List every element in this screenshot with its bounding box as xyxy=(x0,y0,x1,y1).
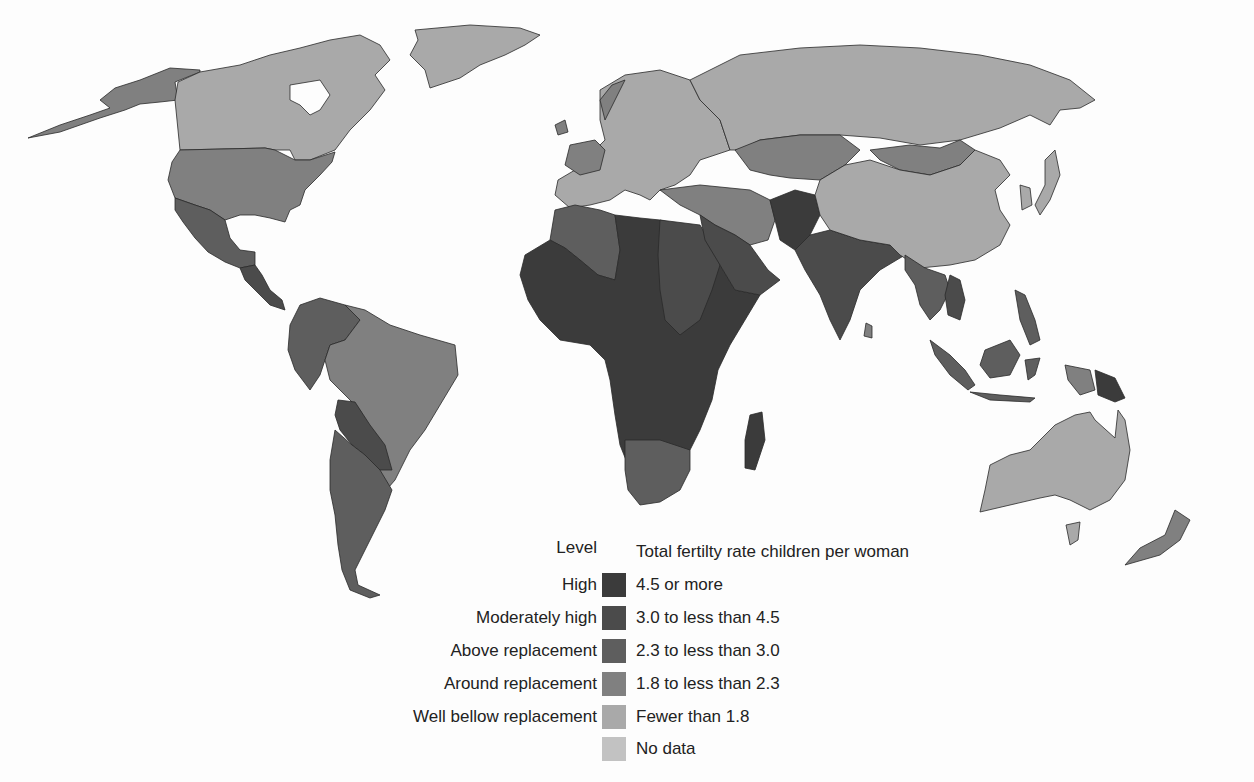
region-papua-indonesia xyxy=(1065,365,1095,395)
region-korea xyxy=(1020,185,1032,210)
region-central-america xyxy=(240,265,285,310)
region-png xyxy=(1095,370,1125,402)
legend-level-label: Moderately high xyxy=(476,608,597,628)
legend-level-label: Above replacement xyxy=(451,641,597,661)
legend-row-well-below-replacement: Well bellow replacement Fewer than 1.8 xyxy=(0,705,1254,729)
legend-range-label: 2.3 to less than 3.0 xyxy=(636,641,780,661)
legend-title: Total fertilty rate children per woman xyxy=(636,542,909,562)
region-russia xyxy=(690,45,1095,150)
region-japan xyxy=(1035,150,1060,215)
legend-row-around-replacement: Around replacement 1.8 to less than 2.3 xyxy=(0,672,1254,696)
legend-level-label: High xyxy=(562,575,597,595)
legend-level-label: Well bellow replacement xyxy=(413,707,597,727)
legend-range-label: No data xyxy=(636,739,696,759)
legend-swatch-well-below-replacement xyxy=(602,705,626,729)
legend-level-label: Around replacement xyxy=(444,674,597,694)
legend-swatch-moderately-high xyxy=(602,606,626,630)
legend-swatch-high xyxy=(602,573,626,597)
legend-range-label: 1.8 to less than 2.3 xyxy=(636,674,780,694)
region-sri-lanka xyxy=(864,323,872,338)
legend-row-above-replacement: Above replacement 2.3 to less than 3.0 xyxy=(0,639,1254,663)
legend-swatch-above-replacement xyxy=(602,639,626,663)
legend-range-label: Fewer than 1.8 xyxy=(636,707,749,727)
legend-swatch-no-data xyxy=(602,737,626,761)
region-ireland xyxy=(555,120,568,135)
region-madagascar xyxy=(745,412,765,470)
region-southern-africa xyxy=(625,440,690,505)
legend-row-no-data: No data xyxy=(0,737,1254,761)
legend-range-label: 4.5 or more xyxy=(636,575,723,595)
region-philippines xyxy=(1015,290,1040,345)
legend-swatch-around-replacement xyxy=(602,672,626,696)
region-greenland xyxy=(410,25,540,88)
region-canada xyxy=(175,35,390,160)
region-australia xyxy=(980,410,1130,512)
region-java xyxy=(970,392,1035,402)
region-india xyxy=(795,230,905,340)
region-laos-cambodia xyxy=(945,275,965,320)
legend-row-high: High 4.5 or more xyxy=(0,573,1254,597)
region-borneo xyxy=(980,340,1020,378)
legend-range-label: 3.0 to less than 4.5 xyxy=(636,608,780,628)
region-sulawesi xyxy=(1025,358,1040,380)
legend-level-header: Level xyxy=(556,538,597,558)
region-france xyxy=(565,140,605,175)
legend: Level Total fertilty rate children per w… xyxy=(0,538,1254,782)
region-alaska xyxy=(28,68,200,138)
legend-row-moderately-high: Moderately high 3.0 to less than 4.5 xyxy=(0,606,1254,630)
region-sumatra xyxy=(930,340,975,390)
